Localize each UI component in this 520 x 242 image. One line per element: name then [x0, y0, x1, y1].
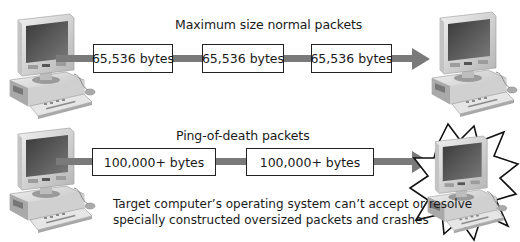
normal-packets-title: Maximum size normal packets — [175, 17, 362, 32]
oversized-packet-box: 100,000+ bytes — [246, 148, 374, 176]
packet-box: 65,536 bytes — [311, 44, 392, 73]
attacker-computer-icon — [4, 128, 96, 236]
caption-line: specially constructed oversized packets … — [113, 212, 472, 228]
ping-of-death-title: Ping-of-death packets — [176, 128, 310, 143]
target-computer-icon — [426, 12, 518, 120]
packet-label: 100,000+ bytes — [104, 155, 205, 170]
packet-label: 65,536 bytes — [310, 51, 392, 66]
packet-label: 65,536 bytes — [202, 51, 284, 66]
caption-line: Target computer’s operating system can’t… — [113, 196, 472, 212]
crash-caption: Target computer’s operating system can’t… — [113, 196, 472, 228]
oversized-packet-box: 100,000+ bytes — [92, 148, 216, 176]
source-computer-icon — [4, 14, 96, 122]
packet-label: 65,536 bytes — [92, 51, 174, 66]
packet-box: 65,536 bytes — [202, 44, 284, 73]
packet-label: 100,000+ bytes — [260, 155, 361, 170]
packet-box: 65,536 bytes — [93, 44, 173, 73]
